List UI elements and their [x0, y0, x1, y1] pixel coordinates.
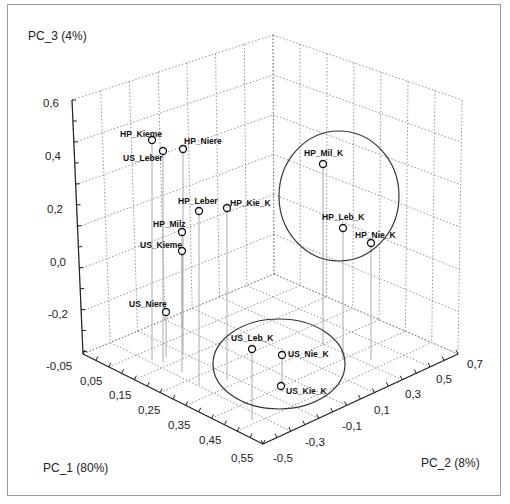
- y-tick: -0,1: [342, 420, 362, 432]
- data-point-marker: [196, 208, 203, 215]
- grid-line: [273, 35, 274, 274]
- grid-line: [110, 343, 291, 432]
- grid-line: [138, 331, 319, 418]
- point-label: HP_Mil_K: [304, 148, 344, 158]
- x-tick-mark: [173, 395, 175, 399]
- y-tick: -0,3: [305, 436, 325, 448]
- data-point-marker: [180, 146, 187, 153]
- point-label: HP_Milz: [153, 219, 186, 229]
- drop-lines: [152, 144, 371, 421]
- z-tick: 0,0: [50, 256, 66, 268]
- data-point-marker: [179, 229, 186, 236]
- grid-line: [78, 155, 274, 228]
- pca-3d-scatter: PC_3 (4%) PC_1 (80%) PC_2 (8%) 0,6 0,4 0…: [0, 0, 510, 504]
- x-tick: -0,05: [46, 360, 72, 372]
- y-axis-title: PC_2 (8%): [421, 456, 480, 470]
- y-tick: 0,1: [374, 404, 390, 416]
- grid-line: [353, 63, 354, 308]
- point-label: HP_Kieme: [120, 129, 162, 139]
- z-tick: 0,4: [45, 150, 62, 162]
- x-tick: 0,25: [138, 404, 160, 416]
- grid-line: [216, 54, 220, 297]
- z-tick: 0,6: [43, 97, 59, 109]
- x-axis-title: PC_1 (80%): [43, 461, 108, 475]
- data-point-marker: [278, 383, 285, 390]
- x-tick-mark: [147, 382, 149, 386]
- y-tick-mark: [386, 382, 388, 386]
- point-label: HP_Niere: [184, 136, 222, 146]
- y-tick-mark: [331, 408, 333, 412]
- grid-line: [101, 91, 111, 343]
- point-label: HP_Leb_K: [322, 212, 365, 222]
- x-tick: 0,55: [231, 452, 253, 464]
- x-tick: 0,05: [80, 375, 102, 387]
- x-tick: 0,45: [199, 434, 221, 446]
- x-tick-mark: [250, 434, 252, 438]
- data-point-marker: [320, 161, 327, 168]
- x-tick-mark: [96, 356, 98, 360]
- grid-line: [273, 75, 461, 142]
- grid-line: [274, 274, 458, 354]
- point-labels: HP_Kieme US_Leber HP_Niere HP_Leber HP_K…: [120, 129, 396, 396]
- z-axis-line: [72, 100, 83, 354]
- x-tick: 0,35: [168, 419, 190, 431]
- data-point-marker: [279, 352, 286, 359]
- grid-line: [274, 155, 461, 228]
- grid-line: [247, 285, 430, 366]
- y-tick: 0,3: [405, 388, 421, 400]
- y-tick: 0,7: [467, 358, 483, 370]
- data-point-marker: [340, 225, 347, 232]
- point-label: HP_Leber: [178, 196, 218, 206]
- grid-line: [192, 308, 374, 392]
- y-tick-mark: [442, 356, 444, 360]
- x-tick-mark: [224, 421, 226, 425]
- grid-line: [237, 343, 431, 432]
- y-tick-mark: [414, 369, 416, 373]
- point-label: US_Leber: [123, 153, 163, 163]
- point-label: US_Leb_K: [231, 333, 274, 343]
- data-point-marker: [368, 240, 375, 247]
- grid-line: [74, 75, 273, 142]
- point-label: HP_Nie_K: [355, 230, 396, 240]
- x-tick: 0,15: [109, 389, 131, 401]
- x-tick-mark: [122, 369, 124, 373]
- grid-line: [458, 100, 462, 354]
- grid-line: [187, 63, 192, 308]
- z-axis-title: PC_3 (4%): [28, 29, 87, 43]
- y-tick: 0,5: [436, 373, 452, 385]
- y-tick-mark: [359, 395, 361, 399]
- point-label: HP_Kie_K: [230, 198, 271, 208]
- grid-line: [274, 274, 458, 354]
- y-tick-mark: [275, 434, 277, 438]
- y-tick-mark: [303, 421, 305, 425]
- grid-line: [72, 35, 273, 100]
- y-tick: -0,5: [273, 452, 293, 464]
- point-label: US_Kieme: [140, 240, 182, 250]
- grid-line: [273, 115, 460, 185]
- grid-line: [273, 35, 462, 100]
- z-tick: -0,2: [48, 308, 68, 320]
- x-tick-mark: [199, 408, 201, 412]
- grid-line: [158, 72, 165, 320]
- data-point-marker: [163, 309, 170, 316]
- grid-line: [379, 72, 381, 320]
- point-label: US_Niere: [129, 299, 167, 309]
- point-label: US_Nie_K: [288, 349, 329, 359]
- point-label: US_Kie_K: [286, 386, 327, 396]
- data-point-marker: [249, 346, 256, 353]
- grid-line: [76, 115, 274, 185]
- z-tick: 0,2: [47, 203, 63, 215]
- grid-line: [109, 285, 301, 366]
- grid-lines: [72, 35, 462, 444]
- grid-line: [274, 234, 459, 311]
